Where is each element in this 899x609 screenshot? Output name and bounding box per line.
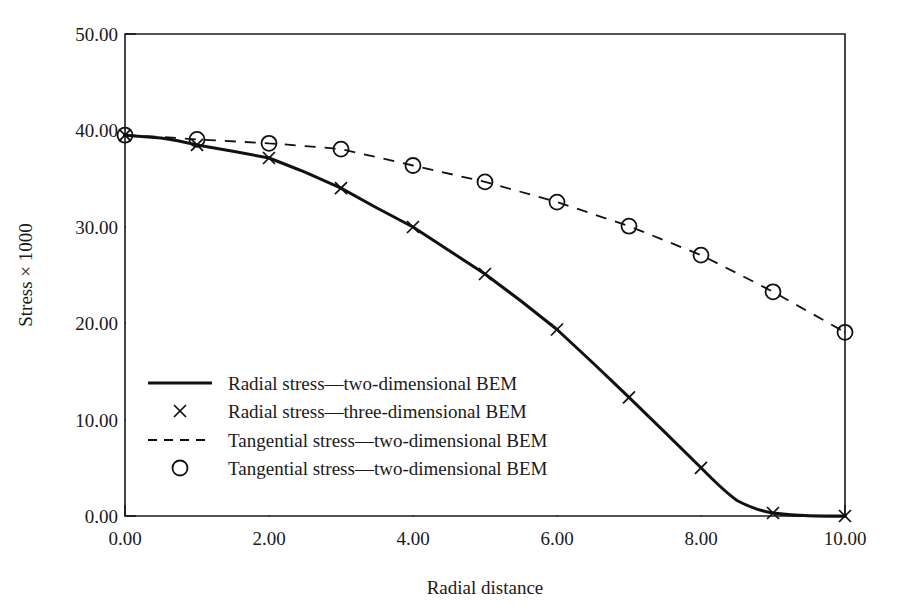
legend-label: Tangential stress—two-dimensional BEM [228,430,548,451]
stress-vs-radial-distance-chart: 50.00 40.00 30.00 20.00 10.00 0.00 0.00 … [0,0,899,609]
y-tick-label-40: 40.00 [75,120,118,141]
y-tick-label-50: 50.00 [75,24,118,45]
x-tick-label-0: 0.00 [108,528,141,549]
y-axis-title: Stress × 1000 [15,223,36,327]
chart-figure: 50.00 40.00 30.00 20.00 10.00 0.00 0.00 … [0,0,899,609]
legend-label: Radial stress—two-dimensional BEM [228,373,517,394]
x-tick-label-10: 10.00 [824,528,867,549]
y-tick-label-10: 10.00 [75,410,118,431]
y-tick-label-20: 20.00 [75,313,118,334]
legend-label: Tangential stress—two-dimensional BEM [228,458,548,479]
x-tick-label-8: 8.00 [684,528,717,549]
x-axis-title: Radial distance [427,577,544,598]
x-tick-label-4: 4.00 [396,528,429,549]
legend-entry-tangential-marker: Tangential stress—two-dimensional BEM [173,458,548,479]
x-tick-label-2: 2.00 [252,528,285,549]
x-tick-label-6: 6.00 [540,528,573,549]
legend-label: Radial stress—three-dimensional BEM [228,401,527,422]
y-tick-label-0: 0.00 [85,506,118,527]
y-tick-label-30: 30.00 [75,217,118,238]
